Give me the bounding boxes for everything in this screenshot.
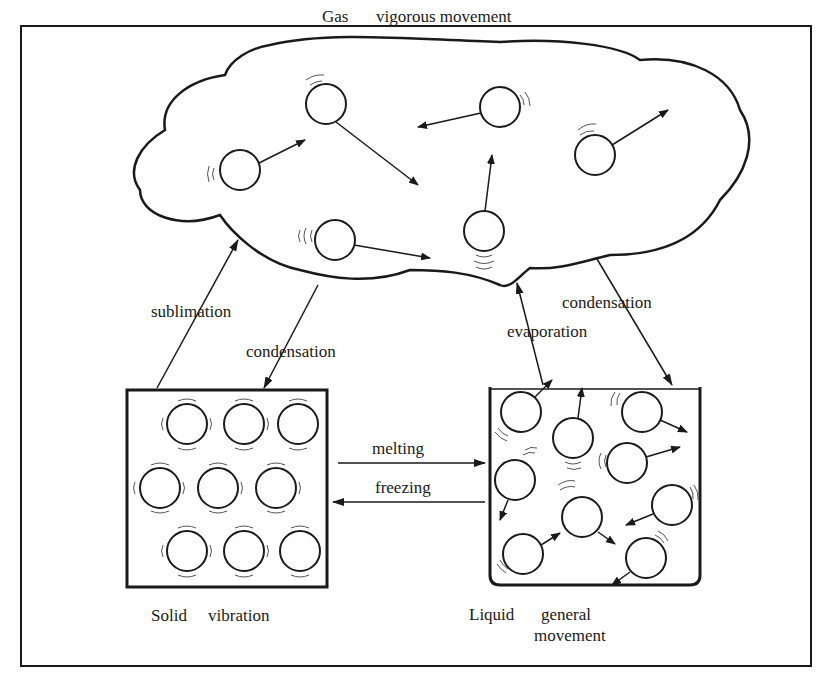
condensation-solid-label: condensation: [246, 343, 336, 360]
liquid-description-line1: general: [541, 606, 591, 623]
liquid-title: Liquid: [469, 606, 514, 623]
states-of-matter-diagram: [0, 0, 821, 680]
liquid-description-line2: movement: [534, 627, 606, 644]
condensation-to-liquid-arrow: [597, 259, 672, 385]
freezing-label: freezing: [375, 479, 431, 496]
frame-border: [21, 26, 811, 666]
gas-molecules: [220, 84, 615, 260]
gas-description: vigorous movement: [376, 8, 512, 25]
solid-title: Solid: [151, 607, 187, 624]
evaporation-label: evaporation: [507, 323, 587, 340]
liquid-molecules: [495, 392, 692, 578]
transition-arrows: [157, 240, 672, 502]
condensation-to-solid-arrow: [264, 285, 318, 388]
solid-molecules: [140, 404, 320, 571]
condensation-liquid-label: condensation: [562, 294, 652, 311]
solid-description: vibration: [208, 607, 269, 624]
melting-label: melting: [372, 440, 424, 457]
gas-title: Gas: [322, 8, 348, 25]
sublimation-label: sublimation: [151, 303, 231, 320]
